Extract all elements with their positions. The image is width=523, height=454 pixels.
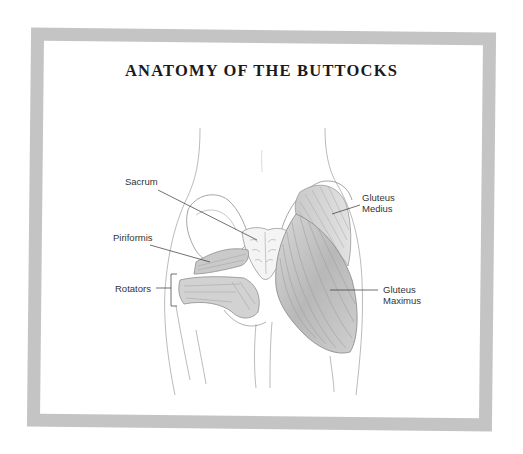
- gluteus-maximus-label-line1: Gluteus: [383, 284, 421, 295]
- gluteus-medius-label: Gluteus Medius: [362, 192, 395, 214]
- buttocks-anatomy-illustration: [0, 0, 523, 454]
- sacrum-label: Sacrum: [125, 176, 158, 187]
- piriformis-muscle: [194, 249, 249, 274]
- rotators-label: Rotators: [115, 283, 151, 294]
- gluteus-medius-label-line2: Medius: [362, 203, 395, 214]
- rotators-bracket: [171, 274, 177, 306]
- piriformis-label: Piriformis: [113, 232, 153, 243]
- piriformis-leader-line: [150, 245, 210, 262]
- rotator-muscles: [179, 277, 266, 326]
- gluteus-maximus-label-line2: Maximus: [383, 295, 421, 306]
- gluteus-medius-label-line1: Gluteus: [362, 192, 395, 203]
- sacrum-leader-line: [158, 190, 257, 240]
- gluteus-maximus-label: Gluteus Maximus: [383, 284, 421, 306]
